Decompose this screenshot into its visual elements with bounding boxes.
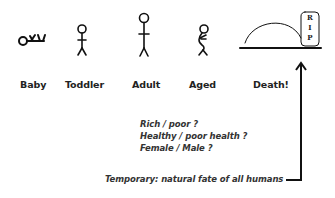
- factor-sex: Female / Male ?: [140, 143, 212, 153]
- factor-health: Healthy / poor health ?: [140, 131, 247, 141]
- aged-stooped-figure-icon: [199, 25, 208, 55]
- baby-lying-icon: [19, 35, 45, 45]
- tombstone-letter: R: [301, 13, 319, 23]
- stage-label-baby: Baby: [20, 79, 46, 90]
- tombstone-letter: P: [301, 33, 319, 43]
- factor-wealth: Rich / poor ?: [140, 119, 198, 129]
- life-stages-diagram: [0, 0, 335, 198]
- adult-stick-figure-icon: [139, 14, 149, 57]
- tombstone-letter: I: [301, 23, 319, 33]
- stage-label-toddler: Toddler: [65, 79, 104, 90]
- stage-label-adult: Adult: [132, 79, 160, 90]
- tombstone-text: R I P: [301, 13, 319, 43]
- stage-label-death: Death!: [253, 79, 289, 90]
- stage-label-aged: Aged: [189, 79, 216, 90]
- arrow-icon: [286, 63, 306, 180]
- fate-note: Temporary: natural fate of all humans: [105, 174, 283, 184]
- toddler-stick-figure-icon: [78, 25, 86, 55]
